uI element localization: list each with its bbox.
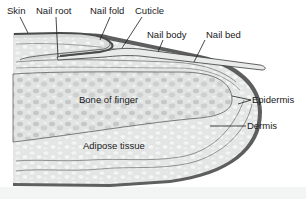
- label-nail-bed: Nail bed: [206, 29, 241, 40]
- label-nail-fold: Nail fold: [90, 5, 124, 16]
- label-adipose-tissue: Adipose tissue: [83, 140, 145, 151]
- label-nail-body: Nail body: [147, 29, 187, 40]
- background-band: [0, 187, 306, 199]
- label-bone-of-finger: Bone of finger: [79, 94, 138, 105]
- leader-skin: [20, 17, 28, 33]
- label-skin: Skin: [7, 5, 25, 16]
- label-dermis: Dermis: [247, 120, 277, 131]
- finger-nail-anatomy-diagram: Skin Nail root Nail fold Cuticle Nail bo…: [0, 0, 306, 199]
- label-cuticle: Cuticle: [135, 5, 164, 16]
- label-nail-root: Nail root: [36, 5, 72, 16]
- label-epidermis: Epidermis: [252, 94, 294, 105]
